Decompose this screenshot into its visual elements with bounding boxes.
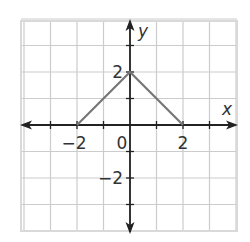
y-axis-label: y: [137, 21, 149, 41]
x-tick-label: 2: [178, 133, 189, 153]
axes: [20, 19, 238, 234]
y-tick-label: 2: [112, 62, 123, 82]
x-axis-label: x: [221, 99, 233, 119]
coordinate-plane: −2022−2 x y: [0, 0, 250, 242]
grid-border: [21, 21, 237, 231]
x-tick-label: −2: [61, 133, 86, 153]
y-tick-label: −2: [98, 168, 123, 188]
x-tick-label: 0: [117, 133, 128, 153]
